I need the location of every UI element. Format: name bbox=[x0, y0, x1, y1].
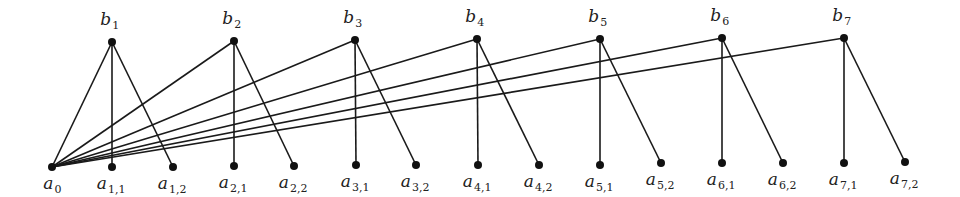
label-b6: b6 bbox=[710, 5, 729, 28]
node-a22 bbox=[290, 162, 298, 170]
node-b3 bbox=[351, 36, 359, 44]
label-a32: a3,2 bbox=[401, 171, 430, 194]
edge-b3-a32 bbox=[355, 40, 416, 165]
node-b7 bbox=[840, 34, 848, 42]
label-a62: a6,2 bbox=[768, 169, 797, 192]
node-a31 bbox=[352, 161, 360, 169]
graph-diagram: a0b1b2b3b4b5b6b7a1,1a1,2a2,1a2,2a3,1a3,2… bbox=[0, 0, 960, 197]
node-a12 bbox=[169, 163, 177, 171]
node-a72 bbox=[901, 158, 909, 166]
label-b4: b4 bbox=[465, 6, 484, 29]
label-a41: a4,1 bbox=[463, 171, 492, 194]
node-a62 bbox=[779, 159, 787, 167]
label-b5: b5 bbox=[588, 6, 607, 29]
edge-b3-a31 bbox=[355, 40, 356, 165]
label-a0: a0 bbox=[43, 173, 61, 196]
label-a31: a3,1 bbox=[341, 171, 370, 194]
label-b7: b7 bbox=[832, 5, 851, 28]
label-a71: a7,1 bbox=[829, 169, 858, 192]
edge-a0-b6 bbox=[52, 38, 722, 167]
node-a61 bbox=[718, 159, 726, 167]
node-a42 bbox=[535, 161, 543, 169]
node-b6 bbox=[718, 34, 726, 42]
label-a42: a4,2 bbox=[524, 171, 553, 194]
edge-b2-a22 bbox=[234, 41, 294, 166]
node-a52 bbox=[657, 159, 665, 167]
label-a22: a2,2 bbox=[279, 172, 308, 195]
node-b4 bbox=[473, 35, 481, 43]
label-a12: a1,2 bbox=[158, 173, 187, 196]
node-a41 bbox=[474, 161, 482, 169]
edges-layer bbox=[52, 38, 905, 167]
edge-a0-b7 bbox=[52, 38, 844, 167]
label-b3: b3 bbox=[343, 7, 362, 30]
node-a0 bbox=[48, 163, 56, 171]
label-a61: a6,1 bbox=[707, 169, 736, 192]
edge-b4-a41 bbox=[477, 39, 478, 165]
edge-b1-a12 bbox=[112, 42, 173, 167]
edge-b7-a72 bbox=[844, 38, 905, 162]
node-a71 bbox=[840, 159, 848, 167]
node-b1 bbox=[108, 38, 116, 46]
label-b2: b2 bbox=[222, 8, 241, 31]
label-a72: a7,2 bbox=[890, 168, 919, 191]
label-a11: a1,1 bbox=[97, 173, 126, 196]
label-a52: a5,2 bbox=[646, 169, 675, 192]
node-a51 bbox=[596, 161, 604, 169]
edge-b5-a52 bbox=[600, 39, 661, 163]
edge-a0-b1 bbox=[52, 42, 112, 167]
label-b1: b1 bbox=[100, 9, 119, 32]
label-a21: a2,1 bbox=[219, 172, 248, 195]
node-b5 bbox=[596, 35, 604, 43]
node-a21 bbox=[230, 162, 238, 170]
edge-a0-b5 bbox=[52, 39, 600, 167]
node-b2 bbox=[230, 37, 238, 45]
node-a32 bbox=[412, 161, 420, 169]
label-a51: a5,1 bbox=[585, 171, 614, 194]
edge-b6-a62 bbox=[722, 38, 783, 163]
edge-b4-a42 bbox=[477, 39, 539, 165]
edge-a0-b3 bbox=[52, 40, 355, 167]
node-a11 bbox=[108, 163, 116, 171]
